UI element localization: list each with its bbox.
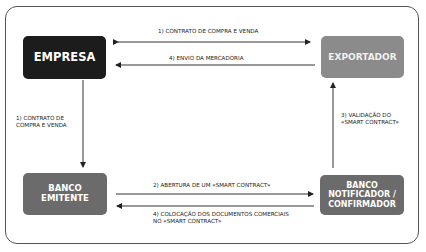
node-banco-emitente-line2: EMITENTE	[41, 194, 89, 204]
node-banco-notificador-line1: BANCO	[346, 181, 378, 190]
edge-label-validation-line1: 3) VALIDAÇÃO DO	[341, 112, 399, 119]
node-banco-emitente: BANCO EMITENTE	[23, 173, 107, 215]
node-exportador: EXPORTADOR	[321, 36, 404, 78]
edge-label-contract-top: 1) CONTRATO DE COMPRA E VENDA	[158, 28, 258, 35]
node-banco-notificador-line3: CONFIRMADOR	[328, 200, 396, 209]
edge-label-contract-left-line1: 1) CONTRATO DE	[16, 115, 67, 122]
node-exportador-label: EXPORTADOR	[328, 52, 396, 62]
edge-label-validation: 3) VALIDAÇÃO DO «SMART CONTRACT»	[341, 112, 399, 127]
node-banco-notificador: BANCO NOTIFICADOR / CONFIRMADOR	[320, 175, 404, 215]
node-empresa: EMPRESA	[23, 36, 106, 79]
edge-label-open-smart-contract: 2) ABERTURA DE UM «SMART CONTRACT»	[153, 182, 270, 189]
edge-label-documents-line1: 4) COLOCAÇÃO DOS DOCUMENTOS COMERCIAIS	[153, 211, 289, 218]
edge-label-contract-left-line2: COMPRA E VENDA	[16, 122, 67, 129]
edge-label-shipment: 4) ENVIO DA MERCADORIA	[169, 55, 243, 62]
node-banco-notificador-line2: NOTIFICADOR /	[328, 190, 396, 199]
node-empresa-label: EMPRESA	[34, 51, 96, 64]
edge-label-documents: 4) COLOCAÇÃO DOS DOCUMENTOS COMERCIAIS N…	[153, 211, 289, 226]
edge-label-contract-left: 1) CONTRATO DE COMPRA E VENDA	[16, 115, 67, 130]
edge-label-validation-line2: «SMART CONTRACT»	[341, 119, 399, 126]
edge-label-documents-line2: NO «SMART CONTRACT»	[153, 218, 289, 225]
